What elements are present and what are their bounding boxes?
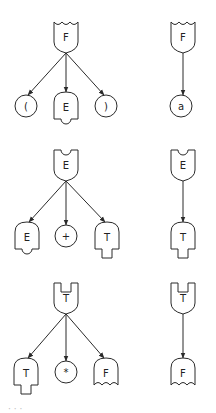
parent-node-f: F [54, 22, 78, 53]
parent-label: F [63, 32, 69, 43]
parent-label: T [62, 293, 70, 304]
terminal-node: a [170, 95, 192, 117]
node-label: T [103, 232, 111, 243]
edge-arrow [29, 181, 66, 222]
child-node-t: T [171, 222, 195, 258]
parent-node-t: T [54, 283, 78, 314]
production-e2: ET [171, 150, 195, 258]
production-f1: F(E) [15, 22, 117, 124]
node-label: a [178, 101, 184, 112]
parent-node-e: E [54, 150, 78, 181]
production-e1: EE+T [15, 150, 119, 258]
child-node-e: E [54, 92, 78, 124]
parent-node-t: T [171, 283, 195, 314]
caption-fragment: · · · [8, 404, 22, 413]
node-label: E [24, 232, 30, 243]
node-label: ( [24, 101, 28, 112]
node-label: + [62, 231, 70, 242]
production-f2: Fa [170, 22, 195, 117]
terminal-node: ( [15, 95, 37, 117]
parent-label: T [179, 293, 187, 304]
parent-label: E [180, 160, 186, 171]
node-label: T [22, 368, 30, 379]
terminal-node: ) [95, 95, 117, 117]
child-node-e: E [15, 222, 39, 254]
node-label: T [179, 232, 187, 243]
edge-arrow [66, 181, 105, 222]
edge-arrow [28, 314, 66, 358]
edge-arrow [66, 314, 104, 358]
production-t1: TT*F [14, 283, 118, 394]
child-node-t: T [14, 358, 38, 394]
grammar-diagram: F(E)FaEE+TETTT*FTF· · · [0, 0, 216, 413]
child-node-f: F [94, 358, 118, 385]
node-label: E [63, 102, 69, 113]
parent-label: F [180, 32, 186, 43]
node-label: F [180, 368, 186, 379]
edge-arrow [66, 53, 104, 95]
node-label: F [103, 368, 109, 379]
production-t2: TF [171, 283, 195, 385]
child-node-f: F [171, 358, 195, 385]
edge-arrow [28, 53, 66, 95]
terminal-node: + [55, 225, 77, 247]
parent-label: E [63, 160, 69, 171]
terminal-node: * [55, 361, 77, 383]
node-label: * [64, 367, 69, 378]
parent-node-e: E [171, 150, 195, 181]
child-node-t: T [95, 222, 119, 258]
node-label: ) [104, 101, 108, 112]
parent-node-f: F [171, 22, 195, 53]
